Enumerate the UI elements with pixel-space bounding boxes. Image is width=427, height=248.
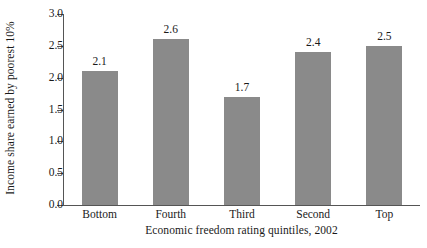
y-axis-ticks: 0.00.51.01.52.02.53.0 xyxy=(0,0,63,248)
y-axis-tick-label: 1.5 xyxy=(17,104,63,116)
y-axis-tick-label: 0.5 xyxy=(17,167,63,179)
y-axis-tick-label: 3.0 xyxy=(17,8,63,20)
x-axis-category-labels: BottomFourthThirdSecondTop xyxy=(64,0,420,248)
x-axis-category-label: Second xyxy=(278,208,349,221)
x-axis-category-label: Top xyxy=(349,208,420,221)
x-axis-category-label: Bottom xyxy=(64,208,135,221)
x-axis-title: Economic freedom rating quintiles, 2002 xyxy=(63,224,420,236)
y-axis-tick-label: 0.0 xyxy=(17,199,63,211)
y-axis-tick-label: 2.5 xyxy=(17,40,63,52)
x-axis-category-label: Fourth xyxy=(135,208,206,221)
y-axis-tick-label: 2.0 xyxy=(17,72,63,84)
bar-chart-figure: Income share earned by poorest 10% 0.00.… xyxy=(0,0,427,248)
y-axis-tick-label: 1.0 xyxy=(17,135,63,147)
x-axis-category-label: Third xyxy=(206,208,277,221)
